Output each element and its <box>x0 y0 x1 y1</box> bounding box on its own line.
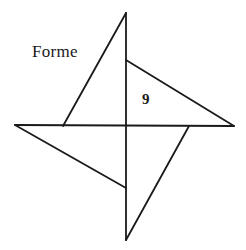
forme-label: Forme <box>32 43 78 60</box>
horizontal-axis-line <box>15 125 234 126</box>
side-length-label-9: 9 <box>142 92 150 107</box>
figure-canvas: Forme 9 <box>0 0 246 250</box>
pinwheel-diagram <box>0 0 246 250</box>
